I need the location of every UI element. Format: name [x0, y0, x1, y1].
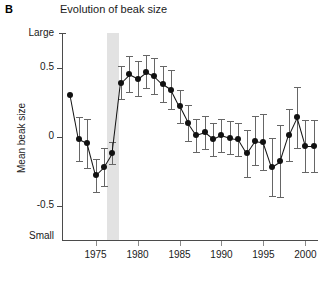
error-bar-cap	[260, 170, 267, 171]
error-bar-cap	[311, 172, 318, 173]
error-bar-cap	[168, 70, 175, 71]
x-tick-label: 2000	[287, 249, 323, 260]
error-bar-cap	[135, 61, 142, 62]
data-point	[109, 150, 115, 156]
data-point	[101, 164, 107, 170]
error-bar-cap	[84, 119, 91, 120]
error-bar-cap	[244, 130, 251, 131]
error-bar-cap	[277, 197, 284, 198]
y-axis-top-label: Large	[28, 27, 54, 38]
error-bar-cap	[244, 177, 251, 178]
data-point	[235, 136, 241, 142]
error-bar-cap	[151, 58, 158, 59]
y-tick-label: 0	[48, 130, 54, 141]
error-bar-cap	[76, 117, 83, 118]
data-point	[269, 164, 275, 170]
error-bar-cap	[235, 156, 242, 157]
x-tick-label: 1975	[78, 249, 114, 260]
y-axis-bottom-label: Small	[29, 230, 54, 241]
error-bar-cap	[143, 88, 150, 89]
error-bar-cap	[143, 55, 150, 56]
data-point	[67, 92, 73, 98]
data-point	[135, 76, 141, 82]
error-bar-cap	[277, 125, 284, 126]
error-bar-cap	[101, 186, 108, 187]
error-bar-cap	[160, 66, 167, 67]
figure-panel-b: B Evolution of beak size Mean beak size …	[0, 0, 330, 288]
data-point	[252, 138, 258, 144]
x-tick-mark	[305, 241, 306, 246]
x-tick-mark	[96, 241, 97, 246]
error-bar-cap	[210, 156, 217, 157]
data-point	[218, 132, 224, 138]
error-bar-cap	[185, 105, 192, 106]
error-bar-cap	[118, 66, 125, 67]
data-point	[185, 120, 191, 126]
error-bar-cap	[227, 121, 234, 122]
error-bar-cap	[202, 149, 209, 150]
data-point	[84, 140, 90, 146]
x-tick-mark	[138, 241, 139, 246]
error-bar-cap	[101, 148, 108, 149]
error-bar-cap	[168, 109, 175, 110]
error-bar-cap	[84, 168, 91, 169]
error-bar-cap	[252, 165, 259, 166]
data-point	[277, 158, 283, 164]
panel-label: B	[5, 3, 13, 15]
error-bar-cap	[93, 192, 100, 193]
x-tick-label: 1985	[162, 249, 198, 260]
data-point	[311, 143, 317, 149]
data-point	[168, 87, 174, 93]
error-bar-cap	[286, 109, 293, 110]
data-point	[160, 81, 166, 87]
error-bar-cap	[311, 120, 318, 121]
error-bar-cap	[269, 196, 276, 197]
error-bar-cap	[294, 148, 301, 149]
error-bar-cap	[302, 172, 309, 173]
chart-title: Evolution of beak size	[60, 3, 167, 15]
error-bar-cap	[177, 123, 184, 124]
data-point	[294, 114, 300, 120]
error-bar-cap	[135, 96, 142, 97]
error-bar-cap	[193, 152, 200, 153]
error-bar-cap	[286, 161, 293, 162]
error-bar-cap	[218, 119, 225, 120]
error-bar-cap	[210, 123, 217, 124]
data-point	[118, 80, 124, 86]
data-point	[143, 69, 149, 75]
x-tick-label: 1990	[203, 249, 239, 260]
error-bar-cap	[126, 92, 133, 93]
error-bar-cap	[269, 138, 276, 139]
x-tick-mark	[180, 241, 181, 246]
error-bar-cap	[76, 161, 83, 162]
error-bar-cap	[177, 90, 184, 91]
error-bar-cap	[109, 164, 116, 165]
error-bar-cap	[218, 152, 225, 153]
error-bar-cap	[235, 123, 242, 124]
error-bar-cap	[202, 116, 209, 117]
data-point	[227, 135, 233, 141]
y-tick-label: -0.5	[37, 199, 54, 210]
error-bar-cap	[160, 102, 167, 103]
data-point	[244, 150, 250, 156]
data-point	[177, 103, 183, 109]
error-bar-cap	[302, 120, 309, 121]
data-point	[260, 139, 266, 145]
x-tick-mark	[263, 241, 264, 246]
error-bar-cap	[227, 154, 234, 155]
data-point	[286, 132, 292, 138]
error-bar-cap	[151, 94, 158, 95]
data-point	[93, 172, 99, 178]
error-bar-cap	[126, 56, 133, 57]
plot-area	[62, 33, 318, 240]
error-bar-cap	[260, 114, 267, 115]
y-axis-label: Mean beak size	[16, 102, 27, 172]
x-tick-mark	[221, 241, 222, 246]
error-bar-cap	[93, 159, 100, 160]
x-tick-label: 1980	[120, 249, 156, 260]
x-axis-line	[62, 240, 318, 241]
x-tick-label: 1995	[245, 249, 281, 260]
data-point	[193, 132, 199, 138]
y-tick-label: 0.5	[40, 61, 54, 72]
error-bar-cap	[294, 87, 301, 88]
